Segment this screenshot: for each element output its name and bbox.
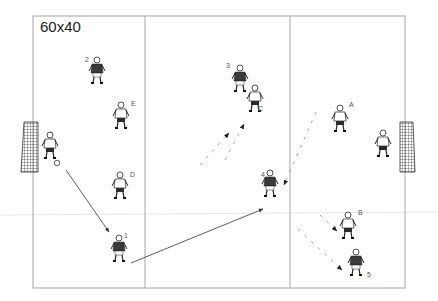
run-arrow-b <box>320 215 337 231</box>
run-arrow-5 <box>298 229 342 270</box>
player-d-label: D <box>130 171 135 178</box>
player-5-label: 5 <box>367 271 371 278</box>
player-3-icon <box>232 65 248 91</box>
player-e-label: E <box>131 100 136 107</box>
player-4-label: 4 <box>261 171 265 178</box>
right-goal <box>400 122 415 172</box>
field-size-label: 60x40 <box>40 18 81 35</box>
player-a-label: A <box>349 101 354 108</box>
faint-midline <box>0 212 438 215</box>
pitch-svg: 2 E D 1 3 C 4 A B 5 <box>0 0 438 301</box>
player-2-icon <box>89 57 105 83</box>
player-2-label: 2 <box>85 56 89 63</box>
player-a-icon <box>332 105 348 131</box>
player-e-icon <box>113 102 129 128</box>
run-arrow-3 <box>200 133 229 165</box>
run-arrow-4 <box>284 112 316 185</box>
player-1-label: 1 <box>124 232 128 239</box>
pass-arrow-1-to-4 <box>131 209 263 263</box>
drill-diagram: 60x40 <box>0 0 438 301</box>
player-3-label: 3 <box>226 62 230 69</box>
player-5-icon <box>348 249 364 275</box>
player-b-icon <box>340 212 356 238</box>
goalkeeper-left-icon <box>42 132 58 158</box>
pass-arrow-gk-to-1 <box>66 170 109 232</box>
run-arrow-c <box>225 124 244 160</box>
player-b-label: B <box>358 209 363 216</box>
goalkeeper-right-icon <box>375 130 391 156</box>
player-d-icon <box>112 172 128 198</box>
player-c-label: C <box>258 105 263 112</box>
left-goal <box>21 122 38 172</box>
ball-icon <box>54 160 60 166</box>
